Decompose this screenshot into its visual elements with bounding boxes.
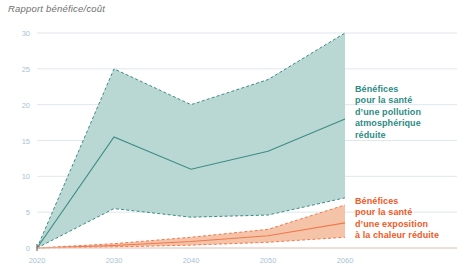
x-tick-label: 2030 bbox=[106, 256, 123, 265]
x-tick-label: 2020 bbox=[29, 256, 46, 265]
y-tick-label: 0 bbox=[26, 244, 30, 253]
chart-canvas: Rapport bénéfice/coût 051015202530 20202… bbox=[0, 0, 467, 278]
x-tick-label: 2040 bbox=[183, 256, 200, 265]
legend-label-air-pollution: Bénéfices pour la santé d’une pollution … bbox=[355, 84, 421, 141]
y-tick-label: 25 bbox=[22, 65, 30, 74]
y-axis-tick-labels: 051015202530 bbox=[22, 29, 30, 253]
y-tick-label: 5 bbox=[26, 208, 30, 217]
series-area-air bbox=[37, 33, 345, 248]
y-tick-label: 15 bbox=[22, 137, 30, 146]
x-axis-tick-labels: 20202030204020502060 bbox=[29, 256, 354, 265]
y-tick-label: 10 bbox=[22, 172, 30, 181]
legend-label-heat-exposure: Bénéfices pour la santé d’une exposition… bbox=[355, 196, 439, 242]
x-tick-label: 2060 bbox=[337, 256, 354, 265]
y-tick-label: 30 bbox=[22, 29, 30, 38]
y-tick-label: 20 bbox=[22, 101, 30, 110]
x-tick-label: 2050 bbox=[260, 256, 277, 265]
